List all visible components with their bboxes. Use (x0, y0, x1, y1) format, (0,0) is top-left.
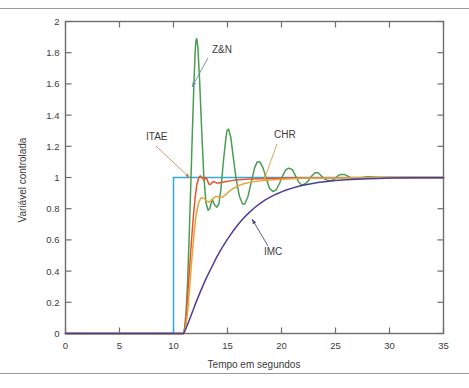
y-tick-label: 1.2 (46, 141, 59, 152)
annotation-label-z-n: Z&N (212, 44, 232, 55)
y-tick-label: 0.2 (46, 297, 59, 308)
y-tick-label: 0.4 (46, 266, 59, 277)
series-line-itae (66, 176, 444, 334)
annotation-label-imc: IMC (264, 246, 282, 257)
x-tick-label: 35 (438, 340, 449, 351)
x-tick-label: 20 (276, 340, 287, 351)
y-tick-label: 1 (54, 172, 59, 183)
y-axis-title: Variável controlada (17, 137, 28, 222)
series-line-chr (66, 178, 444, 334)
x-tick-label: 10 (168, 340, 179, 351)
figure-container: 00.20.40.60.811.21.41.61.82 051015202530… (0, 0, 469, 388)
series-line-z-n (66, 39, 444, 334)
top-divider-rule (0, 8, 469, 9)
chart-plot: 00.20.40.60.811.21.41.61.82 051015202530… (0, 0, 469, 388)
x-axis-title: Tempo em segundos (208, 359, 301, 370)
x-tick-label: 15 (222, 340, 233, 351)
y-axis-tick-labels: 00.20.40.60.811.21.41.61.82 (46, 16, 59, 339)
chart-series-group (66, 39, 444, 334)
annotation-label-chr: CHR (274, 129, 296, 140)
series-line-setpoint (66, 178, 444, 334)
annotation-label-itae: ITAE (146, 131, 168, 142)
x-tick-label: 25 (330, 340, 341, 351)
bottom-divider-rule (0, 373, 469, 374)
annotation-leader-itae (156, 146, 190, 178)
y-tick-label: 0 (54, 328, 59, 339)
x-axis-tick-labels: 05101520253035 (63, 340, 449, 351)
y-tick-label: 0.6 (46, 234, 59, 245)
x-tick-label: 5 (117, 340, 122, 351)
y-tick-label: 1.4 (46, 110, 59, 121)
y-tick-label: 1.8 (46, 47, 59, 58)
x-tick-label: 30 (384, 340, 395, 351)
x-tick-label: 0 (63, 340, 68, 351)
annotation-leader-chr (264, 144, 277, 180)
y-tick-label: 2 (54, 16, 59, 27)
chart-annotations-group: Z&NITAECHRIMC (146, 44, 296, 257)
series-line-imc (66, 178, 444, 334)
annotation-arrowhead (252, 219, 256, 224)
y-tick-label: 0.8 (46, 203, 59, 214)
y-tick-label: 1.6 (46, 78, 59, 89)
